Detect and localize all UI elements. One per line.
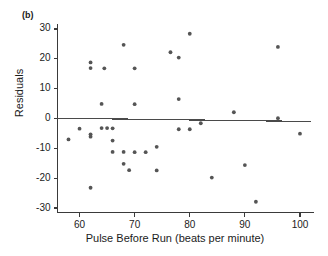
data-point bbox=[243, 163, 247, 167]
data-point bbox=[111, 150, 115, 154]
data-point bbox=[102, 66, 106, 70]
data-point bbox=[276, 116, 280, 120]
data-point bbox=[67, 137, 71, 141]
data-point bbox=[188, 32, 192, 36]
data-point bbox=[254, 200, 258, 204]
data-point bbox=[89, 61, 93, 65]
data-point bbox=[89, 186, 93, 190]
y-tick-label: 10 bbox=[25, 82, 51, 93]
data-point bbox=[100, 126, 104, 130]
data-point bbox=[133, 66, 137, 70]
y-tick-label: 30 bbox=[25, 22, 51, 33]
data-point bbox=[177, 97, 181, 101]
data-point bbox=[155, 169, 159, 173]
data-point bbox=[105, 126, 109, 130]
data-point bbox=[111, 126, 115, 130]
data-point bbox=[210, 176, 214, 180]
data-point bbox=[155, 145, 159, 149]
data-point bbox=[169, 50, 173, 54]
residual-plot-figure: (b) Residuals Pulse Before Run (beats pe… bbox=[0, 0, 328, 256]
x-tick-label: 60 bbox=[66, 219, 94, 230]
data-point bbox=[177, 127, 181, 131]
data-point bbox=[188, 127, 192, 131]
data-point bbox=[133, 102, 137, 106]
x-tick-label: 100 bbox=[286, 219, 314, 230]
data-point bbox=[111, 139, 115, 143]
y-tick-label: -10 bbox=[25, 142, 51, 153]
data-point bbox=[122, 150, 126, 154]
data-point bbox=[232, 110, 236, 114]
x-tick-label: 90 bbox=[231, 219, 259, 230]
data-point bbox=[276, 45, 280, 49]
data-point bbox=[122, 43, 126, 47]
data-point bbox=[144, 150, 148, 154]
data-point bbox=[122, 162, 126, 166]
data-point bbox=[177, 56, 181, 60]
data-point bbox=[100, 102, 104, 106]
y-tick-label: 0 bbox=[25, 112, 51, 123]
data-point bbox=[89, 66, 93, 70]
y-tick-label: -20 bbox=[25, 172, 51, 183]
data-point bbox=[133, 150, 137, 154]
x-tick-label: 80 bbox=[176, 219, 204, 230]
data-points-group bbox=[67, 32, 302, 204]
y-tick-label: 20 bbox=[25, 52, 51, 63]
data-point bbox=[78, 127, 82, 131]
scatter-plot-canvas bbox=[0, 0, 328, 256]
x-tick-label: 70 bbox=[121, 219, 149, 230]
data-point bbox=[127, 168, 131, 172]
zero-line bbox=[58, 118, 312, 121]
data-point bbox=[89, 135, 93, 139]
data-point bbox=[199, 121, 203, 125]
data-point bbox=[298, 132, 302, 136]
y-tick-label: -30 bbox=[25, 202, 51, 213]
zero-reference-line bbox=[58, 118, 312, 121]
